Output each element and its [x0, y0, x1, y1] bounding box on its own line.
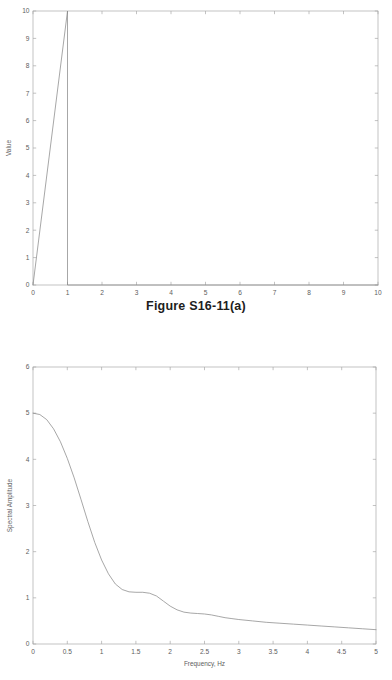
- figure-bottom: 00.511.522.533.544.550123456Spectral Amp…: [0, 350, 392, 680]
- data-series-line: [33, 413, 376, 630]
- figure-top: 012345678910012345678910Value Figure S16…: [0, 0, 392, 340]
- x-tick-label: 4: [169, 289, 173, 296]
- x-tick-label: 0: [31, 289, 35, 296]
- x-tick-label: 2: [168, 648, 172, 655]
- x-tick-label: 1: [66, 289, 70, 296]
- x-tick-label: 1: [100, 648, 104, 655]
- y-tick-label: 7: [26, 90, 30, 97]
- figure-top-caption: Figure S16-11(a): [0, 299, 392, 313]
- data-series-line: [33, 11, 378, 285]
- y-axis-title: Spectral Amplitude: [6, 478, 14, 532]
- x-tick-label: 3.5: [269, 648, 278, 655]
- x-tick-label: 5: [374, 648, 378, 655]
- y-tick-label: 6: [26, 117, 30, 124]
- x-tick-label: 2.5: [200, 648, 209, 655]
- y-tick-label: 0: [26, 281, 30, 288]
- chart-bottom-spectrum: 00.511.522.533.544.550123456Spectral Amp…: [0, 350, 392, 680]
- y-tick-label: 9: [26, 35, 30, 42]
- y-tick-label: 1: [26, 594, 30, 601]
- y-tick-label: 1: [26, 254, 30, 261]
- y-tick-label: 4: [26, 172, 30, 179]
- y-tick-label: 3: [26, 199, 30, 206]
- x-tick-label: 5: [204, 289, 208, 296]
- x-tick-label: 10: [374, 289, 382, 296]
- y-tick-label: 2: [26, 548, 30, 555]
- x-tick-label: 4.5: [337, 648, 346, 655]
- x-tick-label: 3: [135, 289, 139, 296]
- y-tick-label: 4: [26, 456, 30, 463]
- y-tick-label: 8: [26, 62, 30, 69]
- x-tick-label: 9: [342, 289, 346, 296]
- x-tick-label: 7: [273, 289, 277, 296]
- x-tick-label: 4: [306, 648, 310, 655]
- y-tick-label: 3: [26, 502, 30, 509]
- y-tick-label: 0: [26, 640, 30, 647]
- x-tick-label: 0: [31, 648, 35, 655]
- x-tick-label: 0.5: [63, 648, 72, 655]
- chart-top-sawtooth: 012345678910012345678910Value: [0, 0, 392, 300]
- y-tick-label: 10: [22, 7, 30, 14]
- x-tick-label: 3: [237, 648, 241, 655]
- y-tick-label: 2: [26, 227, 30, 234]
- x-axis-title: Frequency, Hz: [184, 660, 225, 668]
- x-tick-label: 2: [100, 289, 104, 296]
- x-tick-label: 6: [238, 289, 242, 296]
- x-tick-label: 8: [307, 289, 311, 296]
- y-tick-label: 6: [26, 363, 30, 370]
- y-tick-label: 5: [26, 409, 30, 416]
- y-tick-label: 5: [26, 144, 30, 151]
- x-tick-label: 1.5: [131, 648, 140, 655]
- y-axis-title: Value: [5, 140, 12, 156]
